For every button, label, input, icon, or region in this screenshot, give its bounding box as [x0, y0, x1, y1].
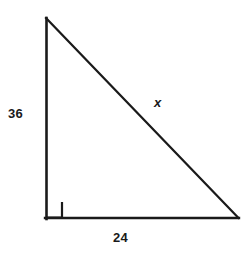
right-triangle-figure: 36 24 x	[0, 0, 249, 256]
triangle-diagram-svg	[0, 0, 249, 256]
hypotenuse-line	[46, 18, 239, 218]
hypotenuse-label: x	[154, 96, 161, 109]
horizontal-leg-label: 24	[113, 231, 128, 244]
right-angle-marker-icon	[48, 203, 63, 218]
vertical-leg-label: 36	[8, 107, 23, 120]
